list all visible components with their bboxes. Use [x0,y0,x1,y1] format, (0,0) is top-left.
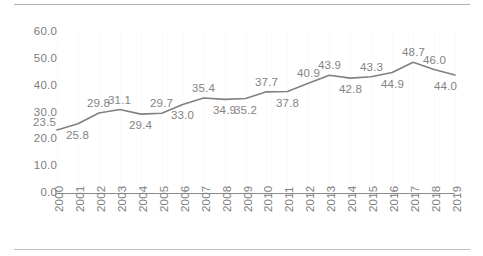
gridline-vertical [266,32,267,193]
gridline-vertical [308,32,309,193]
data-label-2003: 31.1 [108,95,131,107]
data-label-2005: 29.7 [150,98,173,110]
gridline-vertical [57,32,58,193]
data-label-2017: 48.7 [402,47,425,59]
data-label-2008: 34.9 [213,105,236,117]
x-axis-tick-label-2015: 2015 [365,198,377,212]
data-label-2009: 35.2 [234,105,257,117]
gridline-vertical [371,32,372,193]
data-label-2015: 43.3 [360,62,383,74]
y-axis-tick-label: 60.0 [0,26,57,38]
gridline-vertical [287,32,288,193]
bottom-divider-rule [14,249,470,250]
gridline-vertical [162,32,163,193]
data-label-2013: 43.9 [318,60,341,72]
gridline-vertical [350,32,351,193]
y-axis-tick-label: 50.0 [0,53,57,65]
x-axis-tick-label-2003: 2003 [114,198,126,212]
x-axis-tick-label-2007: 2007 [198,198,210,212]
gridline-vertical [204,32,205,193]
gridline-vertical [99,32,100,193]
x-axis-tick-label-2009: 2009 [240,198,252,212]
data-label-2002: 29.8 [87,98,110,110]
data-label-2018: 46.0 [423,55,446,67]
x-axis-tick-label-2019: 2019 [449,198,461,212]
y-axis-tick-label: 0.0 [0,187,57,199]
y-axis-tick-label: 40.0 [0,80,57,92]
x-axis-tick-label-2016: 2016 [386,198,398,212]
chart-figure: 60.050.040.030.020.010.00.0 200020012002… [0,0,483,256]
data-label-2012: 40.9 [297,68,320,80]
gridline-vertical [78,32,79,193]
x-axis-tick-label-2004: 2004 [135,198,147,212]
data-label-2011: 37.8 [276,98,299,110]
data-label-2010: 37.7 [255,77,278,89]
gridline-vertical [120,32,121,193]
y-axis-tick-label: 10.0 [0,160,57,172]
x-axis-tick-label-2008: 2008 [219,198,231,212]
data-label-2000: 23.5 [33,117,56,129]
data-label-2001: 25.8 [66,130,89,142]
data-label-2007: 35.4 [192,83,215,95]
data-label-2014: 42.8 [339,84,362,96]
y-axis-tick-label: 20.0 [0,133,57,145]
gridline-vertical [141,32,142,193]
gridline-vertical [392,32,393,193]
x-axis-tick-label-2001: 2001 [72,198,84,212]
x-axis-tick-label-2010: 2010 [260,198,272,212]
x-axis-tick-label-2011: 2011 [281,198,293,212]
x-axis-tick-label-2018: 2018 [428,198,440,212]
data-label-2004: 29.4 [129,120,152,132]
data-label-2019: 44.0 [434,81,457,93]
x-axis-tick-label-2005: 2005 [156,198,168,212]
x-axis-tick-label-2013: 2013 [323,198,335,212]
x-axis-tick-label-2000: 2000 [51,198,63,212]
data-label-2006: 33.0 [171,110,194,122]
x-axis-tick-label-2017: 2017 [407,198,419,212]
x-axis-tick-label-2006: 2006 [177,198,189,212]
x-axis-tick-label-2002: 2002 [93,198,105,212]
data-label-2016: 44.9 [381,79,404,91]
x-axis-tick-label-2014: 2014 [344,198,356,212]
x-axis-tick-label-2012: 2012 [302,198,314,212]
top-divider-rule [14,4,470,5]
gridline-vertical [329,32,330,193]
gridline-vertical [455,32,456,193]
